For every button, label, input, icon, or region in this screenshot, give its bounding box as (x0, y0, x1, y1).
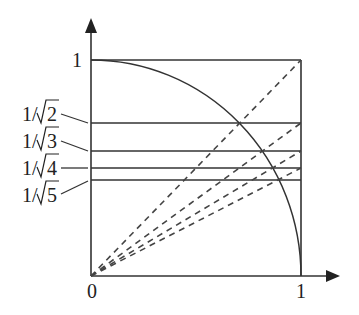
x-label-0: 0 (87, 280, 97, 302)
x-axis-arrow-icon (326, 270, 340, 282)
leader-1-sqrt3 (61, 141, 88, 151)
svg-text:1/: 1/ (22, 103, 38, 125)
svg-text:1/: 1/ (22, 184, 38, 206)
leader-1-sqrt2 (61, 114, 88, 123)
dashed-ray-2 (91, 123, 301, 276)
y-axis-arrow-icon (85, 18, 97, 33)
leader-1-sqrt5 (61, 181, 88, 194)
x-label-1: 1 (296, 280, 306, 302)
svg-text:5: 5 (47, 184, 57, 206)
y-label-1-sqrt4: 1/ 4 (22, 154, 59, 179)
diagram-canvas: 1 0 1 1/ 2 1/ 3 1/ 4 1/ 5 (0, 0, 359, 315)
y-label-1-sqrt2: 1/ 2 (22, 100, 59, 125)
y-label-1-sqrt5: 1/ 5 (22, 181, 59, 206)
svg-text:1/: 1/ (22, 130, 38, 152)
svg-text:3: 3 (47, 130, 57, 152)
y-label-1: 1 (72, 49, 82, 71)
svg-text:1/: 1/ (22, 157, 38, 179)
svg-text:4: 4 (47, 157, 57, 179)
svg-text:2: 2 (47, 103, 57, 125)
dashed-ray-3 (91, 151, 301, 276)
y-label-1-sqrt3: 1/ 3 (22, 127, 59, 152)
dashed-ray-4 (91, 168, 301, 276)
